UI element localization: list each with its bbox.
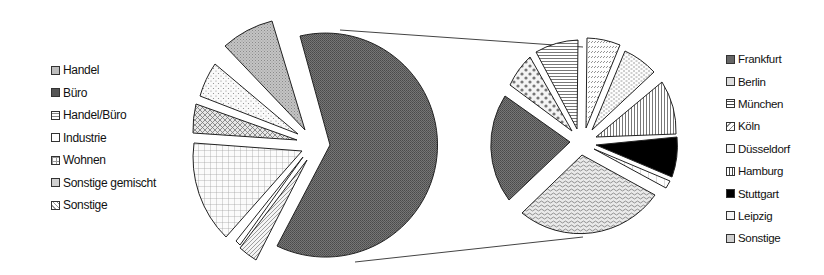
swatch-light-hatch-icon (726, 211, 735, 220)
legend-item-industrie: Industrie (51, 127, 156, 150)
legend-item-handel-buero: Handel/Büro (51, 104, 156, 127)
legend-item-duesseldorf: Düsseldorf (726, 138, 790, 160)
legend-item-stuttgart: Stuttgart (726, 182, 790, 204)
legend-item-sonstige: Sonstige (51, 194, 156, 217)
legend-item-sonstige-right: Sonstige (726, 227, 790, 249)
legend-item-buero: Büro (51, 82, 156, 105)
legend-item-koeln: Köln (726, 115, 790, 137)
legend-item-berlin: Berlin (726, 70, 790, 92)
swatch-grey-dots-icon (51, 66, 60, 75)
swatch-black-icon (726, 189, 735, 198)
swatch-white-icon (51, 133, 60, 142)
connector-line-top (340, 30, 583, 47)
right-pie-chart (491, 38, 678, 234)
swatch-horizontal-lines-icon (51, 111, 60, 120)
swatch-dots-icon (726, 144, 735, 153)
legend-item-frankfurt: Frankfurt (726, 48, 790, 70)
swatch-crosshatch-icon (51, 178, 60, 187)
legend-item-leipzig: Leipzig (726, 205, 790, 227)
legend-item-sonstige-gemischt: Sonstige gemischt (51, 172, 156, 195)
swatch-dark-grey-icon (51, 88, 60, 97)
swatch-horizontal-lines-icon (726, 99, 735, 108)
legend-item-muenchen: München (726, 93, 790, 115)
slice-buero (277, 33, 438, 257)
legend-item-hamburg: Hamburg (726, 160, 790, 182)
legend-right: Frankfurt Berlin München Köln Düsseldorf… (726, 48, 790, 250)
legend-item-wohnen: Wohnen (51, 149, 156, 172)
swatch-dark-grey-icon (726, 55, 735, 64)
swatch-diagonal-lines-icon (726, 122, 735, 131)
swatch-vertical-lines-icon (726, 167, 735, 176)
swatch-wave-icon (726, 234, 735, 243)
connector-line-bottom (355, 237, 583, 262)
swatch-diagonal-lines-icon (51, 201, 60, 210)
legend-item-handel: Handel (51, 59, 156, 82)
legend-left: Handel Büro Handel/Büro Industrie Wohnen… (51, 59, 156, 217)
swatch-checker-icon (726, 77, 735, 86)
swatch-grid-icon (51, 156, 60, 165)
left-pie-chart (193, 21, 438, 260)
